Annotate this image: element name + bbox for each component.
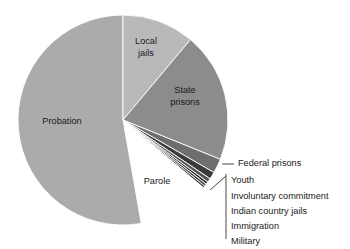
callout-label-youth: Youth	[231, 175, 254, 185]
small-slices-bracket-connector	[210, 176, 226, 190]
callout-label-federal-prisons: Federal prisons	[238, 158, 302, 168]
slice-label-local_jails: Localjails	[135, 37, 157, 58]
callout-label-immigration: Immigration	[231, 221, 279, 231]
pie-chart-svg: ProbationLocaljailsStateprisonsParole Fe…	[0, 0, 350, 249]
callout-label-involuntary_commitment: Involuntary commitment	[231, 191, 329, 201]
small-slices-label-list: YouthInvoluntary commitmentIndian countr…	[231, 175, 329, 246]
pie-chart-figure: ProbationLocaljailsStateprisonsParole Fe…	[0, 0, 350, 249]
slice-label-probation: Probation	[42, 116, 81, 126]
callout-label-indian_country_jails: Indian country jails	[231, 206, 307, 216]
slice-label-parole: Parole	[144, 176, 171, 186]
callout-labels-group: Federal prisons YouthInvoluntary commitm…	[210, 158, 329, 246]
slice-label-state_prisons: Stateprisons	[170, 86, 200, 107]
callout-label-military: Military	[231, 236, 260, 246]
